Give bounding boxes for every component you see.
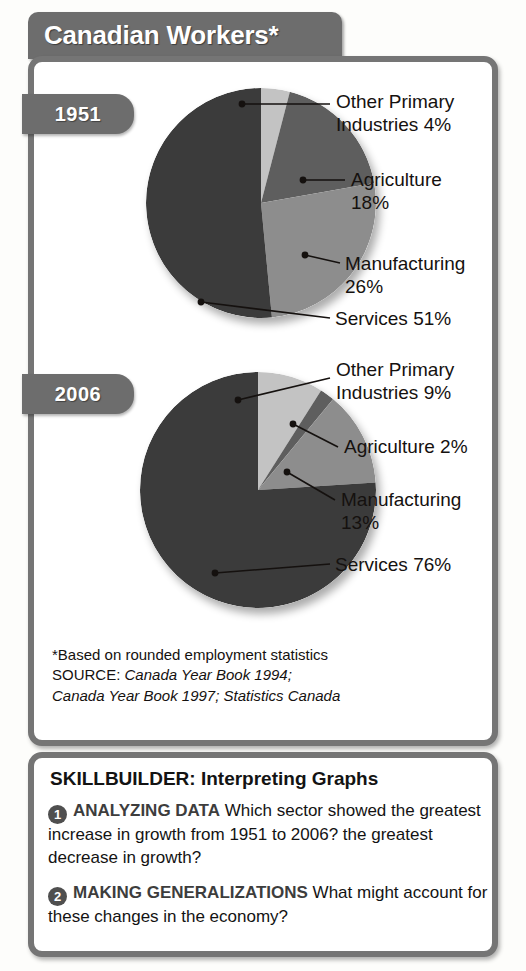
bullet-2-icon: 2 [48,887,67,906]
pie-slice-services [146,88,272,318]
source-block: *Based on rounded employment statistics … [52,645,472,706]
page-title: Canadian Workers* [44,20,279,51]
source-line-1: SOURCE: Canada Year Book 1994; [52,665,472,685]
question-2: 2MAKING GENERALIZATIONS What might accou… [48,882,488,929]
skillbuilder-title: SKILLBUILDER: Interpreting Graphs [50,768,378,790]
callout-1951-agriculture: Agriculture 18% [351,168,442,215]
source-label: SOURCE: [52,666,120,683]
skillbuilder-box: SKILLBUILDER: Interpreting Graphs 1ANALY… [28,752,498,957]
callout-2006-manufacturing: Manufacturing 13% [341,488,461,535]
callout-1951-other-primary: Other Primary Industries 4% [336,90,454,137]
callout-2006-services: Services 76% [335,553,451,576]
source-title-1: Canada Year Book 1994; [125,666,292,683]
year-tab-2006: 2006 [22,374,134,414]
infographic-page: Canadian Workers* 1951 2006 Other Primar… [0,0,526,971]
question-1-category: ANALYZING DATA [73,801,220,820]
year-tab-1951: 1951 [22,94,134,134]
bullet-1-icon: 1 [48,805,67,824]
callout-2006-other-primary: Other Primary Industries 9% [336,358,454,405]
question-1: 1ANALYZING DATA Which sector showed the … [48,800,488,869]
source-footnote: *Based on rounded employment statistics [52,645,472,665]
callout-1951-manufacturing: Manufacturing 26% [345,252,465,299]
question-2-category: MAKING GENERALIZATIONS [73,883,308,902]
title-banner: Canadian Workers* [28,12,342,59]
callout-1951-services: Services 51% [335,307,451,330]
callout-2006-agriculture: Agriculture 2% [344,435,468,458]
source-title-2: Canada Year Book 1997; Statistics Canada [52,686,472,706]
